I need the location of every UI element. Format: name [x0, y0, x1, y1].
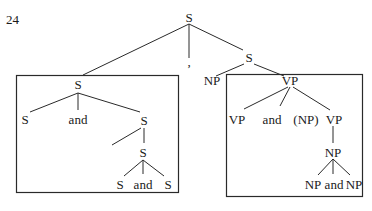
node-left-and: and [69, 112, 88, 127]
node-vp-top: VP [282, 73, 299, 88]
node-inner-s: S [139, 145, 146, 160]
node-right-s: S [245, 50, 252, 65]
node-vp-left: VP [229, 112, 246, 127]
node-leaf-np-2: NP [346, 177, 363, 192]
node-left-s: S [21, 112, 28, 127]
node-leaf-s-2: S [164, 177, 171, 192]
tree-edges [30, 24, 350, 176]
left-constituent-box [17, 76, 179, 193]
node-leaf-and: and [134, 177, 153, 192]
node-object-np: NP [325, 145, 342, 160]
node-vp-right: VP [326, 112, 343, 127]
node-leaf-np-1: NP [305, 177, 322, 192]
figure-number: 24 [6, 12, 20, 27]
node-left-box-s: S [74, 77, 81, 92]
node-root-s: S [185, 10, 192, 25]
node-left-right-s: S [140, 113, 147, 128]
node-comma: , [187, 54, 190, 69]
node-leaf-np-and: and [325, 177, 344, 192]
node-leaf-s-1: S [116, 177, 123, 192]
node-vp-and: and [263, 112, 282, 127]
node-subject-np: NP [204, 73, 221, 88]
node-optional-np: (NP) [293, 112, 318, 127]
syntax-tree-diagram: 24 S , S NP S S an [0, 0, 372, 211]
